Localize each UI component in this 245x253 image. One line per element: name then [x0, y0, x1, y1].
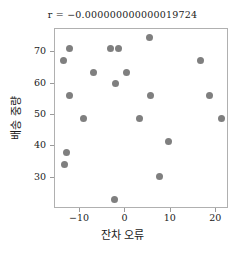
data-point — [147, 92, 154, 99]
x-tick-mark — [170, 208, 171, 212]
y-axis-label: 배송 중량 — [7, 96, 23, 140]
x-axis-label: 잔차 오류 — [0, 226, 245, 242]
data-point — [197, 57, 204, 64]
data-point — [63, 149, 70, 156]
data-point — [111, 196, 118, 203]
data-point — [90, 69, 97, 76]
data-point — [80, 115, 87, 122]
data-point — [165, 138, 172, 145]
x-tick-mark — [124, 208, 125, 212]
data-point — [206, 92, 213, 99]
x-tick-label: 10 — [152, 213, 188, 223]
data-point — [61, 161, 68, 168]
data-point — [156, 173, 163, 180]
x-tick-label: 0 — [106, 213, 142, 223]
data-point — [136, 115, 143, 122]
data-point — [115, 45, 122, 52]
data-point — [112, 80, 119, 87]
scatter-plot-figure: r = −0.000000000000019724 배송 중량 30405060… — [0, 0, 245, 253]
data-point — [66, 92, 73, 99]
data-point — [60, 57, 67, 64]
data-point — [66, 45, 73, 52]
plot-area — [54, 28, 228, 208]
x-tick-label: 20 — [197, 213, 233, 223]
data-point — [123, 69, 130, 76]
y-axis-label-container: 배송 중량 — [2, 0, 28, 236]
x-tick-mark — [215, 208, 216, 212]
data-point — [218, 115, 225, 122]
data-point — [146, 34, 153, 41]
x-tick-label: −10 — [61, 213, 97, 223]
x-tick-mark — [79, 208, 80, 212]
data-point — [107, 45, 114, 52]
chart-title: r = −0.000000000000019724 — [0, 9, 245, 20]
